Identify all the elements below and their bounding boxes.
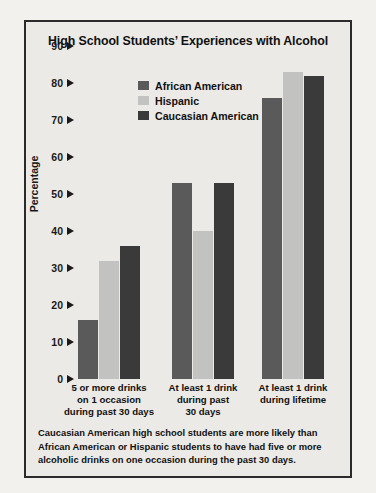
bar-group <box>262 46 324 379</box>
bar-group <box>172 46 234 379</box>
tick-arrow-icon <box>67 227 74 235</box>
page-background: High School Students’ Experiences with A… <box>0 0 376 493</box>
bar <box>193 231 213 379</box>
bar <box>99 261 119 379</box>
x-axis-label-line: during lifetime <box>244 394 342 406</box>
tick-arrow-icon <box>67 42 74 50</box>
y-axis-tick: 60 <box>30 150 74 164</box>
bar <box>78 320 98 379</box>
tick-arrow-icon <box>67 338 74 346</box>
x-axis-label-line: 5 or more drinks <box>60 382 158 394</box>
chart-footnote: Caucasian American high school students … <box>38 426 338 466</box>
bar <box>120 246 140 379</box>
y-axis-tick: 30 <box>30 261 74 275</box>
x-axis-label: At least 1 drinkduring past30 days <box>154 382 252 419</box>
bar <box>262 98 282 379</box>
tick-arrow-icon <box>67 116 74 124</box>
y-axis-tick: 70 <box>30 113 74 127</box>
tick-arrow-icon <box>67 264 74 272</box>
chart-card: High School Students’ Experiences with A… <box>24 20 352 478</box>
x-axis-label-line: At least 1 drink <box>244 382 342 394</box>
x-axis-label-line: At least 1 drink <box>154 382 252 394</box>
x-axis-labels: 5 or more drinkson 1 occasionduring past… <box>76 382 344 428</box>
x-axis-label-line: on 1 occasion <box>60 394 158 406</box>
y-axis-tick-label: 80 <box>51 77 63 89</box>
y-axis-tick: 80 <box>30 76 74 90</box>
y-axis-tick: 50 <box>30 187 74 201</box>
tick-arrow-icon <box>67 301 74 309</box>
y-axis-tick: 10 <box>30 335 74 349</box>
bar <box>172 183 192 379</box>
y-axis-title: Percentage <box>28 156 40 213</box>
plot-area: Percentage 9080706050403020100 <box>76 46 344 379</box>
x-axis-label-line: during past <box>154 394 252 406</box>
y-axis-tick-label: 90 <box>51 40 63 52</box>
y-axis-tick-label: 10 <box>51 336 63 348</box>
bar-group <box>78 46 140 379</box>
y-axis-tick: 20 <box>30 298 74 312</box>
tick-arrow-icon <box>67 79 74 87</box>
bar-groups <box>76 46 344 379</box>
y-axis-tick-label: 70 <box>51 114 63 126</box>
y-axis-tick-label: 50 <box>51 188 63 200</box>
y-axis-tick-label: 40 <box>51 225 63 237</box>
bar <box>304 76 324 379</box>
y-axis-tick: 90 <box>30 39 74 53</box>
x-axis-label: 5 or more drinkson 1 occasionduring past… <box>60 382 158 419</box>
x-axis-label: At least 1 drinkduring lifetime <box>244 382 342 406</box>
y-axis-tick-label: 30 <box>51 262 63 274</box>
x-axis-label-line: during past 30 days <box>60 406 158 418</box>
y-axis-tick-label: 60 <box>51 151 63 163</box>
y-axis-tick: 40 <box>30 224 74 238</box>
bar <box>283 72 303 379</box>
x-axis-label-line: 30 days <box>154 406 252 418</box>
tick-arrow-icon <box>67 190 74 198</box>
y-axis-tick-label: 20 <box>51 299 63 311</box>
bar <box>214 183 234 379</box>
tick-arrow-icon <box>67 153 74 161</box>
